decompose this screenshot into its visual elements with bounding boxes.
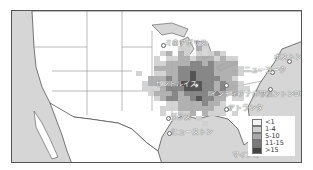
density-cell (172, 66, 178, 71)
city-label-atlanta: アトランタ (228, 104, 263, 112)
density-cell (232, 56, 238, 61)
density-cell (214, 71, 220, 76)
density-cell (160, 106, 166, 111)
density-cell (226, 56, 232, 61)
city-label-st-louis: セントルイス (155, 80, 197, 88)
legend-swatch (252, 119, 262, 126)
density-cell (172, 96, 178, 101)
density-cell (166, 106, 172, 111)
density-cell (178, 101, 184, 106)
density-cell (154, 91, 160, 96)
density-cell (208, 101, 214, 106)
density-cell (160, 66, 166, 71)
density-cell (160, 61, 166, 66)
density-cell (154, 71, 160, 76)
density-cell (184, 66, 190, 71)
density-cell (184, 106, 190, 111)
density-cell (190, 91, 196, 96)
density-cell (202, 76, 208, 81)
density-cell (142, 81, 148, 86)
density-cell (178, 61, 184, 66)
density-cell (172, 101, 178, 106)
legend-swatch (252, 126, 262, 133)
density-cell (166, 61, 172, 66)
density-cell (226, 61, 232, 66)
density-cell (160, 71, 166, 76)
density-cell (220, 66, 226, 71)
city-label-houston: ヒューストン (171, 128, 213, 136)
density-cell (166, 101, 172, 106)
density-cell (208, 106, 214, 111)
density-cell (196, 91, 202, 96)
legend-item: >15 (252, 147, 292, 154)
density-cell (202, 81, 208, 86)
density-cell (196, 96, 202, 101)
density-cell (184, 91, 190, 96)
density-cell (202, 111, 208, 116)
density-cell (154, 56, 160, 61)
density-cell (202, 71, 208, 76)
density-cell (172, 91, 178, 96)
density-cell (190, 66, 196, 71)
density-cell (214, 51, 220, 56)
density-cell (172, 106, 178, 111)
city-label-new-york: ニューヨーク (244, 66, 286, 74)
density-cell (214, 76, 220, 81)
density-cell (166, 66, 172, 71)
density-cell (208, 111, 214, 116)
density-cell (148, 81, 154, 86)
density-cell (166, 56, 172, 61)
density-cell (154, 61, 160, 66)
density-cell (196, 116, 202, 121)
density-cell (208, 71, 214, 76)
density-cell (202, 91, 208, 96)
city-label-dallas: ダラス (170, 113, 191, 121)
density-cell (232, 81, 238, 86)
density-cell (208, 81, 214, 86)
density-cell (196, 66, 202, 71)
city-label-minneapolis: ミネアポリス (165, 39, 207, 47)
legend: <11-45-1011-15>15 (248, 116, 295, 156)
city-dot-indianapolis (224, 83, 229, 88)
density-cell (172, 61, 178, 66)
density-cell (184, 71, 190, 76)
density-cell (196, 51, 202, 56)
density-cell (196, 61, 202, 66)
density-cell (184, 56, 190, 61)
density-cell (190, 61, 196, 66)
density-cell (178, 106, 184, 111)
density-cell (196, 106, 202, 111)
city-label-washington-dc: ワシントンDC (259, 90, 302, 98)
baja-california (34, 111, 58, 159)
legend-swatch (252, 147, 262, 154)
density-cell (148, 91, 154, 96)
density-cell (226, 76, 232, 81)
density-cell (208, 61, 214, 66)
density-cell (214, 111, 220, 116)
density-cell (178, 56, 184, 61)
density-cell (178, 91, 184, 96)
density-cell (160, 96, 166, 101)
density-cell (220, 61, 226, 66)
density-cell (196, 71, 202, 76)
density-cell (208, 56, 214, 61)
legend-swatch (252, 133, 262, 140)
density-cell (214, 61, 220, 66)
density-cell (232, 61, 238, 66)
density-cell (136, 71, 142, 76)
density-cell (190, 96, 196, 101)
density-cell (184, 101, 190, 106)
density-cell (214, 101, 220, 106)
density-cell (202, 121, 208, 126)
density-cell (202, 101, 208, 106)
density-cell (184, 96, 190, 101)
density-cell (202, 96, 208, 101)
density-cell (196, 56, 202, 61)
density-cell (166, 51, 172, 56)
density-cell (220, 101, 226, 106)
density-cell (154, 66, 160, 71)
density-cell (202, 106, 208, 111)
density-cell (184, 51, 190, 56)
density-cell (202, 86, 208, 91)
density-cell (190, 56, 196, 61)
